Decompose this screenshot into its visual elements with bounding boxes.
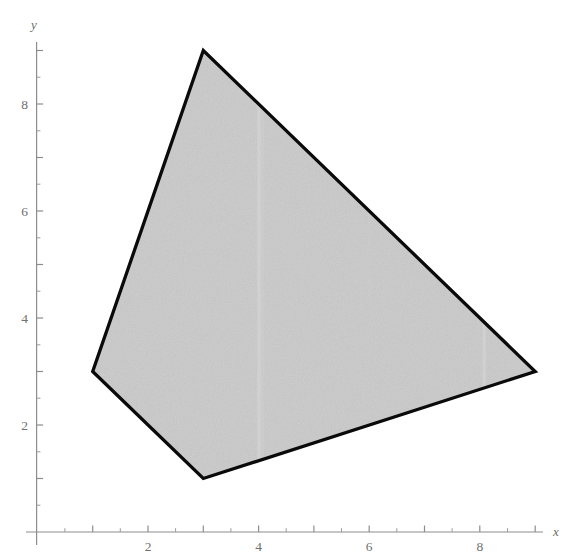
x-tick-label-2: 2 (145, 539, 152, 554)
y-tick-label-4: 4 (21, 311, 28, 326)
scan-streak (262, 45, 263, 485)
x-tick-label-4: 4 (255, 539, 262, 554)
x-tick-label-6: 6 (366, 539, 373, 554)
y-tick-label-6: 6 (21, 204, 28, 219)
x-tick-label-8: 8 (476, 539, 483, 554)
shaded-region-group (80, 40, 550, 490)
scan-streak (258, 45, 260, 485)
y-tick-label-8: 8 (21, 97, 28, 112)
y-axis-label: y (29, 17, 37, 32)
y-tick-label-2: 2 (21, 418, 28, 433)
x-axis-major-ticks (93, 526, 536, 533)
scan-streak (484, 300, 486, 390)
x-axis: 2 4 6 8 x (26, 524, 559, 554)
plot-canvas: 2 4 6 8 x (0, 0, 570, 560)
x-axis-label: x (552, 524, 559, 539)
polygon-plot-figure: 2 4 6 8 x (0, 0, 570, 560)
y-axis: 2 4 6 8 y (21, 17, 43, 545)
scan-streak (369, 140, 370, 300)
y-axis-major-ticks (37, 51, 44, 479)
